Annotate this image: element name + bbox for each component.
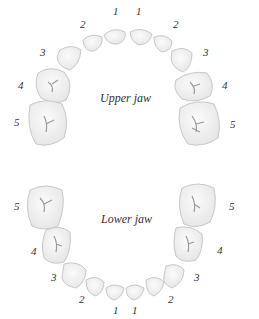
upper-tooth-number: 2 [173,19,179,30]
lower-tooth-number: 5 [14,201,20,212]
lower-tooth-number: 1 [113,305,119,316]
teeth-illustration [0,0,259,319]
dental-arch-diagram: Upper jaw Lower jaw 1 1 2 2 3 3 4 4 5 5 … [0,0,259,319]
upper-jaw-label: Upper jaw [100,91,151,106]
upper-tooth-number: 2 [80,19,86,30]
lower-tooth-number: 4 [217,245,223,256]
lower-tooth-number: 5 [229,201,235,212]
upper-tooth-number: 4 [222,80,228,91]
lower-tooth-number: 3 [51,272,57,283]
lower-tooth-number: 4 [31,246,37,257]
lower-jaw-label: Lower jaw [101,212,152,227]
upper-teeth [29,29,219,145]
lower-tooth-number: 2 [168,294,174,305]
upper-tooth-number: 1 [136,6,142,17]
lower-tooth-number: 3 [194,272,200,283]
upper-tooth-number: 5 [230,119,236,130]
lower-tooth-number: 2 [79,294,85,305]
upper-tooth-number: 3 [40,47,46,58]
lower-tooth-number: 1 [132,305,138,316]
upper-tooth-number: 3 [203,47,209,58]
upper-tooth-number: 1 [113,6,119,17]
upper-tooth-number: 4 [18,80,24,91]
upper-tooth-number: 5 [14,117,20,128]
